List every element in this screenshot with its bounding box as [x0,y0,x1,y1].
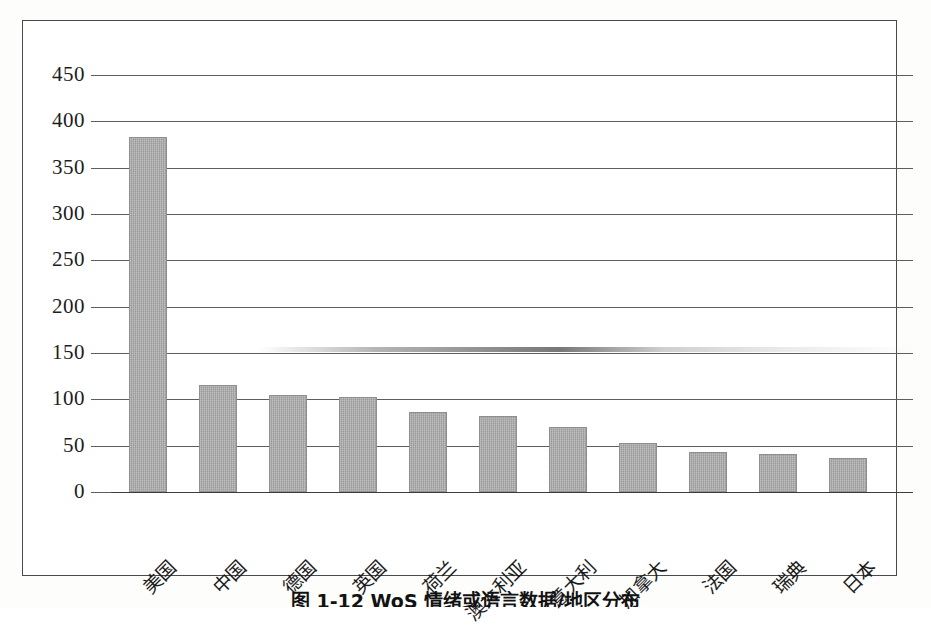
y-axis-tick-300 [91,214,111,215]
gridline-250 [111,260,913,261]
bar-9 [689,452,727,492]
bar-4 [339,397,377,492]
gridline-350 [111,168,913,169]
y-axis-label-150: 150 [52,340,85,365]
gridline-400 [111,121,913,122]
bar-5 [409,412,447,492]
figure-frame: 050100150200250300350400450 美国中国德国英国荷兰澳大… [22,20,897,576]
y-axis-label-200: 200 [52,294,85,319]
bar-6 [479,416,517,492]
y-axis-tick-0 [91,492,111,493]
bar-3 [269,395,307,492]
y-axis-tick-150 [91,353,111,354]
y-axis-tick-200 [91,307,111,308]
gridline-450 [111,75,913,76]
y-axis-tick-400 [91,121,111,122]
bar-7 [549,427,587,492]
chart-plot-area: 050100150200250300350400450 美国中国德国英国荷兰澳大… [111,75,913,492]
y-axis-label-50: 50 [63,433,85,458]
y-axis-label-350: 350 [52,155,85,180]
bar-11 [829,458,867,492]
y-axis-tick-350 [91,168,111,169]
bar-8 [619,443,657,492]
y-axis-tick-250 [91,260,111,261]
gridline-0 [111,492,913,493]
y-axis-tick-100 [91,399,111,400]
bar-1 [129,137,167,492]
bar-10 [759,454,797,492]
gridline-200 [111,307,913,308]
y-axis-label-0: 0 [74,479,85,504]
gridline-300 [111,214,913,215]
y-axis-label-400: 400 [52,109,85,134]
y-axis-label-250: 250 [52,248,85,273]
y-axis-tick-450 [91,75,111,76]
gridline-150 [111,353,913,354]
figure-caption: 图 1-12 WoS 情绪或语言数据/地区分布 [0,586,931,607]
y-axis-label-450: 450 [52,62,85,87]
bar-2 [199,385,237,492]
y-axis-tick-50 [91,446,111,447]
y-axis-label-100: 100 [52,387,85,412]
y-axis-label-300: 300 [52,201,85,226]
